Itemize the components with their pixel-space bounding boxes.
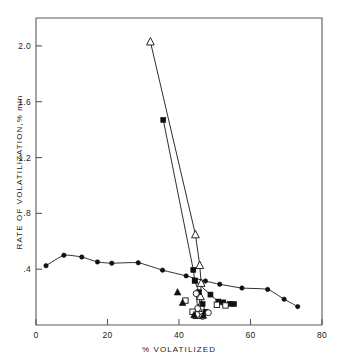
y-axis-title: RATE OF VOLATILIZATION,% min [15, 95, 24, 250]
data-point-low-cluster-open-circles-4 [205, 310, 211, 316]
y-tick-label-0.8: .8 [23, 208, 31, 218]
data-point-shallow-curve-filled-circles-9 [218, 282, 222, 286]
y-tick-label-2: 2.0 [18, 41, 31, 51]
x-tick-label-40: 40 [174, 330, 184, 340]
data-point-low-cluster-open-squares-2 [214, 302, 219, 307]
data-point-steep-line-open-triangle-0 [147, 38, 155, 45]
data-point-steep-line-open-triangle-1 [192, 230, 200, 237]
axis-spine-top-right [36, 18, 322, 325]
data-point-shallow-curve-filled-circles-3 [95, 260, 99, 264]
data-point-steep-line-open-triangle-2 [196, 261, 204, 268]
data-point-low-cluster-filled-squares-1 [208, 292, 213, 297]
data-point-shallow-curve-filled-circles-8 [203, 279, 207, 283]
data-point-steep-line-filled-square-4 [200, 302, 205, 307]
data-point-low-cluster-open-circles-0 [193, 291, 199, 297]
data-point-shallow-curve-filled-circles-11 [265, 287, 269, 291]
series-markers [44, 38, 300, 320]
data-point-low-cluster-filled-squares-0 [192, 278, 197, 283]
chart-figure: 020406080 .4.81.21.62.0 % VOLATILIZED RA… [0, 0, 338, 362]
data-point-low-cluster-filled-squares-5 [232, 302, 237, 307]
x-tick-label-0: 0 [33, 330, 38, 340]
data-point-shallow-curve-filled-circles-7 [184, 274, 188, 278]
y-axis-ticks [36, 46, 42, 269]
y-tick-label-0.4: .4 [23, 264, 31, 274]
data-point-shallow-curve-filled-circles-5 [136, 261, 140, 265]
data-point-shallow-curve-filled-circles-0 [44, 263, 48, 267]
data-point-shallow-curve-filled-circles-6 [160, 268, 164, 272]
x-tick-label-60: 60 [245, 330, 255, 340]
data-point-shallow-curve-filled-circles-2 [80, 255, 84, 259]
data-point-shallow-curve-filled-circles-1 [62, 253, 66, 257]
data-point-shallow-curve-filled-circles-13 [295, 304, 299, 308]
data-point-steep-line-filled-square-0 [161, 117, 166, 122]
x-axis-tick-labels: 020406080 [33, 330, 327, 340]
data-point-shallow-curve-filled-circles-4 [110, 261, 114, 265]
x-tick-label-80: 80 [317, 330, 327, 340]
series-line-shallow-curve-filled-circles [46, 255, 298, 307]
axis-frame [36, 18, 322, 325]
series-lines [46, 42, 298, 317]
data-point-low-cluster-open-squares-3 [223, 303, 228, 308]
axis-spine-left-bottom [36, 18, 322, 325]
data-point-steep-line-filled-square-1 [191, 267, 196, 272]
data-point-shallow-curve-filled-circles-10 [240, 286, 244, 290]
x-axis-title: % VOLATILIZED [142, 345, 216, 354]
data-point-low-cluster-filled-triangles-0 [174, 289, 181, 295]
x-axis-ticks [36, 319, 322, 325]
volatilization-scatter-chart: 020406080 .4.81.21.62.0 % VOLATILIZED RA… [0, 0, 338, 362]
x-tick-label-20: 20 [102, 330, 112, 340]
data-point-shallow-curve-filled-circles-12 [282, 297, 286, 301]
